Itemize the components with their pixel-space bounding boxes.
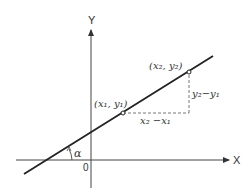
line-slope-diagram: Y X 0 α (x₁, y₁) (x₂, y₂) x₂ −x₁ y₂−y₁ [0,0,251,196]
sloped-line [24,56,213,174]
origin-label: 0 [83,162,89,173]
y-axis-label: Y [88,14,96,26]
run-label: x₂ −x₁ [140,115,171,126]
point-1-marker [121,111,125,115]
point-1-label: (x₁, y₁) [94,98,128,109]
x-axis-label: X [233,154,241,166]
point-2-marker [187,70,191,74]
angle-label: α [74,147,82,160]
rise-label: y₂−y₁ [191,88,220,99]
point-2-label: (x₂, y₂) [149,60,183,71]
